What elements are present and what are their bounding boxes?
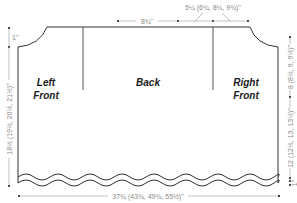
right-front-label-2: Front [233, 90, 259, 101]
dim-dot [289, 177, 291, 179]
back-label: Back [136, 77, 160, 88]
body-length-measurement: 12 (12½, 13, 13½)" [287, 108, 295, 168]
dim-dot [117, 20, 119, 22]
shoulder-measurement: 5¼ (6¾, 8¼, 9¾)" [185, 4, 241, 12]
left-front-label-1: Left [37, 77, 56, 88]
garment-schematic: Left Front Back Right Front 8¾" 5¼ (6¾, … [0, 0, 297, 203]
dim-dot [8, 185, 10, 187]
shoulder-leader-1 [195, 13, 203, 21]
armhole-measurement: 8 (8½, 9, 9½)" [287, 44, 295, 89]
right-front-label-1: Right [233, 77, 259, 88]
dim-dot [278, 195, 280, 197]
width-measurement: 37¾ (43¾, 49¾, 55½)" [112, 193, 184, 201]
hem-wave-bottom [18, 180, 279, 186]
hem-measurement: 1" [291, 179, 297, 186]
left-front-label-2: Front [33, 90, 59, 101]
shoulder-leader-2 [222, 13, 230, 21]
back-neck-measurement: 8¾" [141, 18, 154, 25]
dim-dot [289, 36, 291, 38]
hem-wave-top [18, 174, 279, 180]
body-outline [18, 27, 278, 177]
dim-dot [18, 195, 20, 197]
length-measurement: 18½ (19½, 20½, 21½)" [6, 83, 14, 155]
dim-dot [8, 27, 10, 29]
dim-dot [247, 20, 249, 22]
neck-drop-measurement: 1" [12, 34, 19, 41]
